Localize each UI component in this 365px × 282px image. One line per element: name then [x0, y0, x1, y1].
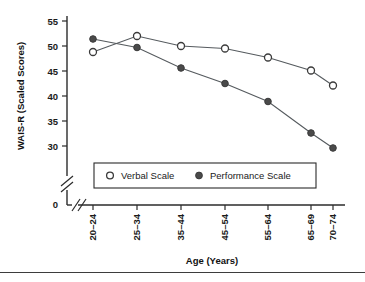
- data-point-performance: [222, 80, 229, 87]
- series-line-performance: [93, 39, 333, 148]
- x-tick-label: 45–54: [219, 213, 230, 240]
- y-tick-label: 45: [47, 66, 58, 77]
- series-layer: [90, 33, 337, 152]
- y-axis-ticks: [62, 21, 67, 146]
- y-tick-label: 30: [47, 141, 58, 152]
- y-tick-label: 40: [47, 91, 58, 102]
- x-tick-label: 65–69: [305, 214, 316, 240]
- x-tick-label: 20–24: [87, 213, 98, 240]
- legend-open-circle-icon: [107, 172, 114, 179]
- data-point-performance: [265, 98, 272, 105]
- footer-divider: [0, 272, 365, 273]
- chart-legend: Verbal Scale Performance Scale: [94, 163, 316, 188]
- data-point-performance: [90, 36, 97, 43]
- series-line-verbal: [93, 36, 333, 86]
- x-tick-label: 55–64: [262, 213, 273, 240]
- y-tick-label: 35: [47, 116, 58, 127]
- x-axis-title: Age (Years): [186, 255, 238, 266]
- data-point-verbal: [222, 45, 229, 52]
- y-tick-label: 50: [47, 41, 58, 52]
- data-point-verbal: [90, 49, 97, 56]
- data-point-performance: [330, 145, 337, 152]
- y-axis-title: WAIS-R (Scaled Scores): [15, 42, 26, 150]
- line-chart: 55 50 45 40 35 30 0 20–24 25–34 35–44 45…: [0, 0, 365, 282]
- legend-label-performance: Performance Scale: [210, 170, 291, 181]
- legend-label-verbal: Verbal Scale: [121, 170, 174, 181]
- x-tick-label: 25–34: [131, 213, 142, 240]
- data-point-verbal: [308, 67, 315, 74]
- y-tick-label: 55: [47, 16, 58, 27]
- y-axis-break-icon: [61, 176, 73, 192]
- legend-filled-circle-icon: [196, 172, 203, 179]
- chart-figure: 55 50 45 40 35 30 0 20–24 25–34 35–44 45…: [0, 0, 365, 282]
- x-tick-label: 70–74: [327, 213, 338, 240]
- data-point-performance: [134, 44, 141, 51]
- x-axis-ticks: [93, 205, 333, 210]
- data-point-performance: [178, 65, 185, 72]
- data-point-verbal: [134, 33, 141, 40]
- data-point-verbal: [265, 54, 272, 61]
- data-point-performance: [308, 130, 315, 137]
- data-point-verbal: [178, 43, 185, 50]
- x-tick-label: 35–44: [175, 213, 186, 240]
- data-point-verbal: [330, 82, 337, 89]
- origin-zero-label: 0: [53, 199, 58, 210]
